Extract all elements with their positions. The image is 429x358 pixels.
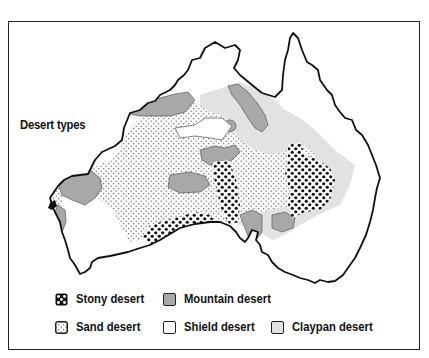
legend-mountain-desert: Mountain desert [163, 292, 281, 306]
legend-label: Mountain desert [184, 292, 271, 306]
mountain-desert-swatch-icon [163, 293, 176, 306]
claypan-desert-swatch-icon [271, 321, 284, 334]
legend-label: Shield desert [184, 320, 255, 334]
map-title: Desert types [20, 118, 85, 132]
legend-shield-desert: Shield desert [163, 320, 263, 334]
legend-label: Stony desert [76, 292, 144, 306]
shield-desert-swatch-icon [163, 321, 176, 334]
legend-sand-desert: Sand desert [55, 320, 148, 334]
legend-label: Sand desert [76, 320, 140, 334]
legend-label: Claypan desert [292, 320, 373, 334]
legend-stony-desert: Stony desert [55, 292, 152, 306]
stony-desert-swatch-icon [55, 293, 68, 306]
sand-desert-swatch-icon [55, 321, 68, 334]
legend-claypan-desert: Claypan desert [271, 320, 382, 334]
